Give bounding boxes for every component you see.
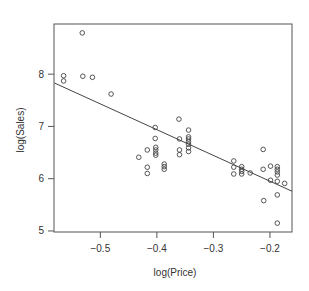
data-point — [231, 172, 236, 177]
data-point — [275, 179, 280, 184]
x-axis: −0.5−0.4−0.3−0.2 — [90, 232, 280, 254]
data-point — [145, 171, 150, 176]
data-point — [136, 155, 141, 160]
regression-line — [55, 83, 292, 191]
data-point — [81, 74, 86, 79]
y-tick-label: 8 — [38, 69, 44, 80]
data-point — [145, 165, 150, 170]
data-point — [153, 136, 158, 141]
data-point — [275, 221, 280, 226]
data-point — [231, 159, 236, 164]
data-point — [177, 148, 182, 153]
x-tick-label: −0.4 — [147, 243, 167, 254]
data-point — [186, 128, 191, 133]
data-point — [261, 198, 266, 203]
y-axis-label: log(Sales) — [15, 107, 26, 152]
data-point — [275, 193, 280, 198]
y-tick-label: 5 — [38, 225, 44, 236]
data-point — [109, 92, 114, 97]
data-point — [261, 147, 266, 152]
data-point — [90, 75, 95, 80]
x-tick-label: −0.5 — [90, 243, 110, 254]
y-tick-label: 7 — [38, 121, 44, 132]
x-tick-label: −0.2 — [260, 243, 280, 254]
x-axis-label: log(Price) — [154, 267, 197, 278]
x-tick-label: −0.3 — [204, 243, 224, 254]
data-point — [261, 167, 266, 172]
y-tick-label: 6 — [38, 173, 44, 184]
data-point — [61, 73, 66, 78]
plot-frame — [54, 24, 292, 232]
y-axis: 5678 — [38, 69, 54, 237]
data-point — [177, 117, 182, 122]
data-points — [61, 31, 287, 226]
data-point — [61, 79, 66, 84]
data-point — [268, 164, 273, 169]
data-point — [177, 152, 182, 157]
data-point — [282, 181, 287, 186]
plot-border — [54, 24, 292, 232]
data-point — [145, 148, 150, 153]
scatter-chart: −0.5−0.4−0.3−0.2 5678 log(Price) log(Sal… — [0, 0, 309, 291]
data-point — [275, 173, 280, 178]
fit-line — [55, 83, 292, 191]
data-point — [80, 31, 85, 36]
